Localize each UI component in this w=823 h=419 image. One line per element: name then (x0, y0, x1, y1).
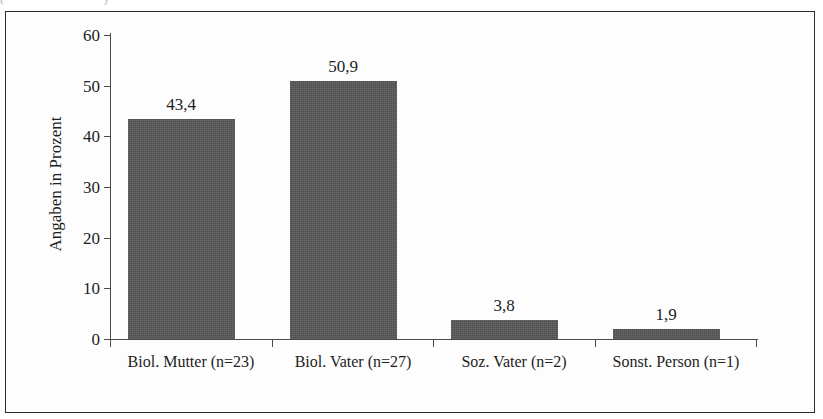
chart-page: ( ) Angaben in Prozent 60 50 40 30 20 (0, 0, 823, 419)
y-tick-mark (104, 136, 111, 137)
bar-value-label-biol-vater: 50,9 (283, 58, 403, 75)
y-tick-label-30: 30 (52, 179, 100, 196)
y-tick-mark (104, 238, 111, 239)
y-tick-label-60: 60 (52, 27, 100, 44)
x-tick-mark (433, 339, 434, 347)
y-tick-label-10: 10 (52, 280, 100, 297)
y-tick-label-text: 30 (60, 179, 100, 196)
x-category-label-biol-mutter: Biol. Mutter (n=23) (110, 352, 272, 371)
y-tick-label-50: 50 (52, 78, 100, 95)
bar-chart-plot: Angaben in Prozent 60 50 40 30 20 10 (0, 0, 823, 419)
y-tick-label-40: 40 (52, 128, 100, 145)
bar-value-label-biol-mutter: 43,4 (121, 96, 241, 113)
y-tick-label-0: 0 (52, 331, 100, 348)
y-tick-label-20: 20 (52, 230, 100, 247)
y-tick-label-text: 40 (60, 128, 100, 145)
y-tick-label-text: 50 (60, 78, 100, 95)
y-tick-label-text: 60 (60, 27, 100, 44)
y-tick-label-text: 0 (60, 331, 100, 348)
y-tick-mark (104, 35, 111, 36)
bar-biol-mutter (128, 119, 235, 339)
x-tick-mark (595, 339, 596, 347)
bar-value-label-sonst-person: 1,9 (606, 306, 726, 323)
bar-biol-vater (290, 81, 397, 339)
bar-value-label-soz-vater: 3,8 (444, 297, 564, 314)
x-category-label-biol-vater: Biol. Vater (n=27) (272, 352, 434, 371)
x-tick-mark (110, 339, 111, 347)
y-tick-mark (104, 288, 111, 289)
bar-sonst-person (613, 329, 720, 339)
y-tick-label-text: 10 (60, 280, 100, 297)
x-category-label-soz-vater: Soz. Vater (n=2) (433, 352, 595, 371)
x-category-label-sonst-person: Sonst. Person (n=1) (595, 352, 757, 371)
bar-soz-vater (451, 320, 558, 339)
x-tick-mark (756, 339, 757, 347)
x-tick-mark (272, 339, 273, 347)
y-tick-mark (104, 86, 111, 87)
y-tick-mark (104, 187, 111, 188)
y-tick-label-text: 20 (60, 230, 100, 247)
